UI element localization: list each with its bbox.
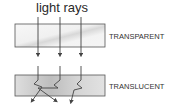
transparent-panel — [15, 17, 105, 55]
translucent-panel — [15, 66, 105, 102]
light-diagram — [0, 0, 172, 112]
transparent-label: TRANSPARENT — [109, 32, 164, 41]
translucent-label: TRANSLUCENT — [109, 82, 164, 91]
